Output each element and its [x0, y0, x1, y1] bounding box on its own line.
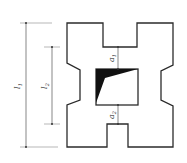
l1-label: l1	[13, 83, 23, 89]
outer-outline	[67, 23, 173, 147]
a2-label: a2	[107, 111, 117, 119]
section-diagram: a1 a2 l1 l2	[0, 0, 187, 163]
a1-label: a1	[107, 54, 117, 62]
l2-label: l2	[40, 83, 50, 89]
filled-wedge	[96, 69, 138, 103]
